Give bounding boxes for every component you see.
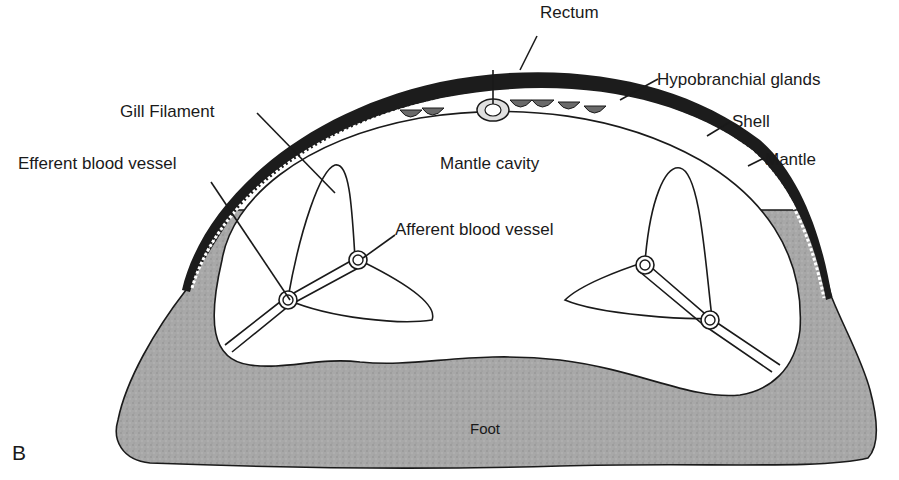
panel-letter: B — [12, 441, 26, 464]
label-gill-filament: Gill Filament — [120, 102, 215, 121]
label-hypobranchial-glands: Hypobranchial glands — [657, 70, 821, 89]
label-efferent-blood-vessel: Efferent blood vessel — [18, 154, 176, 173]
label-foot: Foot — [470, 420, 501, 437]
mollusc-cross-section-diagram: Rectum Hypobranchial glands Shell Mantle… — [0, 0, 899, 480]
label-rectum: Rectum — [540, 3, 599, 22]
label-afferent-blood-vessel: Afferent blood vessel — [395, 220, 553, 239]
label-mantle-cavity: Mantle cavity — [440, 154, 540, 173]
label-mantle: Mantle — [765, 150, 816, 169]
label-shell: Shell — [732, 112, 770, 131]
diagram-canvas: Rectum Hypobranchial glands Shell Mantle… — [0, 0, 899, 480]
